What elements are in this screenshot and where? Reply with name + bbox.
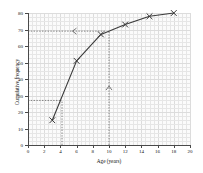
data-point-markers — [50, 10, 177, 122]
data-overlay — [0, 0, 203, 173]
y-axis-label: Cumulative frequency — [14, 37, 20, 127]
data-point-marker — [98, 32, 103, 37]
data-point-marker — [50, 118, 55, 123]
guide-lines-group — [28, 28, 112, 145]
data-point-marker — [74, 58, 79, 63]
cumulative-frequency-curve — [52, 13, 174, 120]
x-axis-label: Age (years) — [28, 158, 190, 164]
data-point-marker — [123, 22, 128, 27]
cumulative-frequency-chart: 0246810121416182001020304050607080 Age (… — [0, 0, 203, 173]
